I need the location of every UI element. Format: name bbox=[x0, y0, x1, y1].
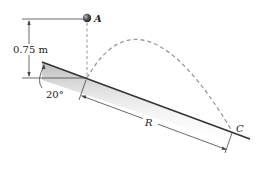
ball-A bbox=[83, 14, 91, 22]
range-arrow-right bbox=[222, 147, 228, 150]
incline-shading bbox=[42, 62, 250, 150]
projectile-incline-diagram: 0.75 m A 20° R C bbox=[0, 0, 260, 171]
angle-label: 20° bbox=[46, 89, 64, 100]
range-arrow-left bbox=[81, 96, 87, 99]
height-arrow-top bbox=[27, 20, 30, 25]
height-arrow-bottom bbox=[27, 72, 30, 77]
height-label: 0.75 m bbox=[13, 44, 48, 55]
point-C-label: C bbox=[236, 123, 244, 134]
point-A-label: A bbox=[93, 13, 102, 24]
range-label: R bbox=[144, 117, 153, 128]
